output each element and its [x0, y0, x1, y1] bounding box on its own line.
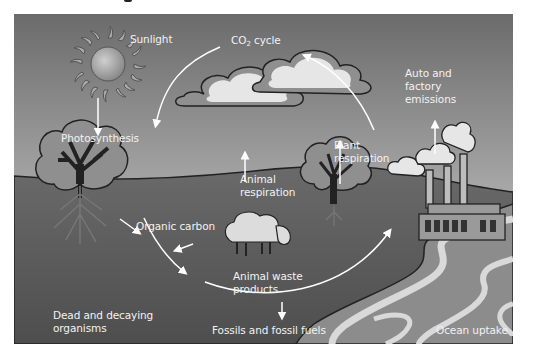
label-ocean-uptake: Ocean uptake — [436, 324, 508, 337]
title-fragment — [124, 0, 132, 2]
label-animal-respiration: Animal respiration — [240, 173, 295, 199]
dead-decaying-line2: organisms — [53, 322, 153, 335]
plant-respiration-line2: respiration — [334, 152, 389, 165]
animal-waste-line2: products — [233, 283, 303, 296]
auto-emissions-line3: emissions — [405, 93, 456, 106]
label-sunlight: Sunlight — [130, 33, 172, 46]
animal-waste-line1: Animal waste — [233, 270, 303, 283]
label-plant-respiration: Plant respiration — [334, 139, 389, 165]
label-photosynthesis: Photosynthesis — [61, 132, 139, 145]
label-animal-waste: Animal waste products — [233, 270, 303, 296]
label-organic-carbon: Organic carbon — [136, 220, 215, 233]
co2-prefix: CO — [231, 34, 246, 46]
label-dead-decaying: Dead and decaying organisms — [53, 309, 153, 335]
animal-respiration-line1: Animal — [240, 173, 295, 186]
co2-suffix: cycle — [251, 34, 281, 46]
label-co2-cycle: CO2 cycle — [231, 34, 281, 51]
carbon-cycle-diagram: Sunlight CO2 cycle Auto and factory emis… — [14, 14, 513, 344]
label-fossils: Fossils and fossil fuels — [212, 324, 326, 337]
label-auto-emissions: Auto and factory emissions — [405, 67, 456, 106]
animal-respiration-line2: respiration — [240, 186, 295, 199]
plant-respiration-line1: Plant — [334, 139, 389, 152]
auto-emissions-line2: factory — [405, 80, 456, 93]
auto-emissions-line1: Auto and — [405, 67, 456, 80]
dead-decaying-line1: Dead and decaying — [53, 309, 153, 322]
